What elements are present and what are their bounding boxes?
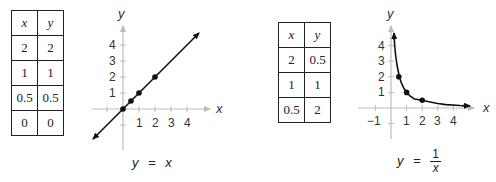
graph-reciprocal: x y −1 1 2 3 4 1 2 3 4 [358,6,490,139]
curve-y-equals-1-over-x [394,36,468,106]
x-tick-1: 1 [136,116,143,130]
x-tick-neg1: −1 [367,114,381,128]
x-tick-1: 1 [403,114,410,128]
equation-caption-linear: y = x [132,155,172,170]
y-tick-3: 3 [109,54,116,68]
x-tick-3: 3 [168,116,175,130]
graph-linear: x y 1 2 3 4 1 2 3 4 [92,6,223,150]
fraction-denominator: x [430,162,441,175]
caption-rhs: x [165,155,172,170]
caption-equals: = [148,155,156,170]
point-2-2 [152,74,158,80]
point-0.5-2 [396,74,402,80]
caption-lhs: y [397,153,404,168]
y-axis-label: y [117,6,126,21]
y-tick-1: 1 [378,85,385,99]
y-tick-2: 2 [109,70,116,84]
y-tick-2: 2 [378,70,385,84]
x-axis-label: x [482,100,490,115]
caption-equals: = [413,153,421,168]
y-axis-label: y [386,6,395,21]
point-2-0.5 [419,97,425,103]
caption-lhs: y [132,155,139,170]
point-1-1 [404,90,410,96]
fraction: 1 x [430,148,441,175]
x-tick-4: 4 [184,116,191,130]
line-y-equals-x-lower [93,109,123,139]
y-tick-3: 3 [378,54,385,68]
y-tick-4: 4 [109,38,116,52]
y-tick-1: 1 [109,86,116,100]
x-tick-2: 2 [152,116,159,130]
equation-caption-reciprocal: y = 1 x [397,148,441,175]
line-y-equals-x-upper [123,33,199,109]
x-tick-2: 2 [419,114,426,128]
x-tick-4: 4 [450,114,457,128]
point-0.5-0.5 [128,98,134,104]
point-1-1 [136,90,142,96]
point-0-0 [120,106,126,112]
x-tick-3: 3 [434,114,441,128]
y-tick-4: 4 [378,39,385,53]
x-axis-label: x [215,101,223,116]
fraction-numerator: 1 [430,148,441,162]
